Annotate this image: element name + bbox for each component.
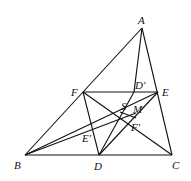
label-E: E [161, 86, 169, 98]
label-A: A [137, 14, 145, 26]
label-S: S [121, 100, 127, 112]
label-D: D [93, 160, 102, 172]
label-C: C [172, 159, 180, 171]
label-F-prime: F' [130, 121, 141, 133]
segments [25, 28, 172, 155]
label-F: F [70, 86, 78, 98]
label-E-prime: E' [81, 132, 92, 144]
geometry-diagram: A B C D E F D' S M F' E' [0, 0, 191, 181]
label-D-prime: D' [134, 79, 146, 91]
label-B: B [14, 159, 21, 171]
label-M: M [132, 103, 143, 115]
